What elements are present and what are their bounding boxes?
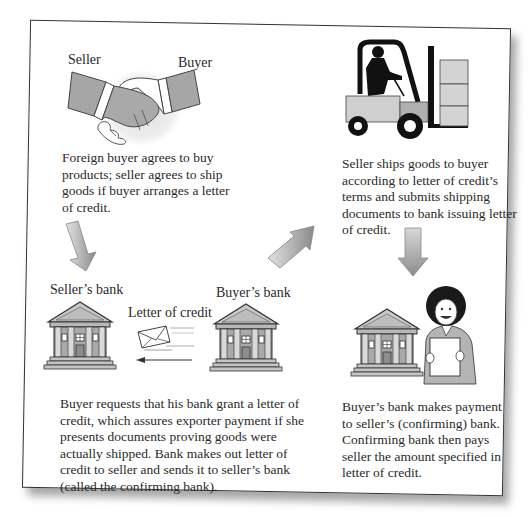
buyers-bank-label: Buyer’s bank <box>216 285 291 301</box>
forklift-icon <box>344 38 474 140</box>
confirming-bank-icon <box>355 305 427 377</box>
text-line: documents to bank issuing letter <box>342 206 517 223</box>
text-line: to seller’s (confirming) bank. <box>342 416 502 433</box>
text-line: credit, which assures exporter payment i… <box>60 413 304 430</box>
arrow-down-right-icon <box>396 226 430 278</box>
handshake-icon <box>64 64 214 146</box>
text-line: letter of credit. <box>342 465 502 482</box>
diagram-stage: Seller Buyer Foreign buyer agrees to buy… <box>0 0 528 517</box>
sellers-bank-icon <box>48 298 120 370</box>
step-payment-text: Buyer’s bank makes payment to seller’s (… <box>342 399 502 482</box>
text-line: products; seller agrees to ship <box>62 167 230 184</box>
text-line: credit to seller and sends it to seller’… <box>60 462 304 479</box>
person-holding-document-icon <box>424 284 496 392</box>
text-line: Buyer requests that his bank grant a let… <box>60 396 304 413</box>
text-line: of credit. <box>62 200 230 217</box>
step-issue-letter-text: Buyer requests that his bank grant a let… <box>60 396 304 495</box>
text-line: Confirming bank then pays <box>342 432 502 449</box>
text-line: goods if buyer arranges a letter <box>62 183 230 200</box>
letter-of-credit-label: Letter of credit <box>128 305 212 321</box>
text-line: actually shipped. Bank makes out letter … <box>60 446 304 463</box>
text-line: according to letter of credit’s <box>342 173 517 190</box>
sellers-bank-label: Seller’s bank <box>50 282 123 298</box>
text-line: Seller ships goods to buyer <box>342 156 517 173</box>
buyers-bank-icon <box>214 300 286 372</box>
text-line: Buyer’s bank makes payment <box>342 399 502 416</box>
text-line: Foreign buyer agrees to buy <box>62 150 230 167</box>
text-line: (called the confirming bank). <box>60 479 304 496</box>
arrow-up-right-icon <box>266 224 320 268</box>
text-line: presents documents proving goods were <box>60 429 304 446</box>
envelope-icon <box>136 326 196 362</box>
text-line: seller the amount specified in <box>342 449 502 466</box>
arrow-down-left-icon <box>62 220 102 272</box>
step-agreement-text: Foreign buyer agrees to buy products; se… <box>62 150 230 216</box>
text-line: terms and submits shipping <box>342 189 517 206</box>
